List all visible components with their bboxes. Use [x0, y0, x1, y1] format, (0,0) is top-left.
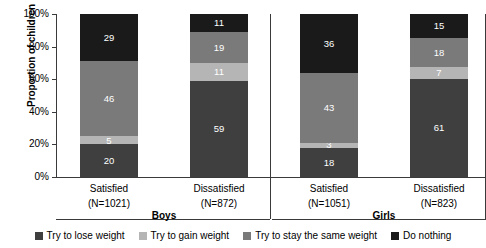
bar-segment: 20 — [80, 144, 138, 177]
stacked-bar-chart: Proportion of children 0%20%40%60%80%100… — [0, 0, 486, 248]
legend-item: Try to lose weight — [35, 231, 125, 241]
x-category-label: Dissatisfied(N=872) — [164, 183, 274, 210]
bar-segment-value: 29 — [104, 33, 115, 43]
bar-segment: 43 — [300, 73, 358, 143]
chart-legend: Try to lose weightTry to gain weightTry … — [0, 231, 486, 241]
bar-segment: 5 — [80, 136, 138, 144]
bar-segment: 15 — [410, 14, 468, 38]
group-label: Girls — [294, 210, 474, 221]
x-axis-baseline — [56, 177, 486, 178]
legend-swatch-icon — [391, 232, 399, 240]
legend-label: Try to stay the same weight — [255, 231, 377, 241]
x-category-name: Satisfied — [54, 183, 164, 195]
bar-segment-value: 19 — [214, 43, 225, 53]
x-category-name: Dissatisfied — [164, 183, 274, 195]
bar-segment: 29 — [80, 14, 138, 61]
bar-segment: 11 — [190, 14, 248, 32]
bar-segment-value: 36 — [324, 39, 335, 49]
legend-label: Try to lose weight — [47, 231, 125, 241]
bar-segment-value: 11 — [214, 67, 224, 77]
bar-segment-value: 15 — [434, 21, 445, 31]
x-category-sample-size: (N=823) — [384, 198, 486, 210]
plot-area: 20546295911191118343366171815 — [56, 14, 486, 177]
bar-segment: 19 — [190, 32, 248, 63]
bar-segment: 46 — [80, 61, 138, 136]
x-category-sample-size: (N=1021) — [54, 198, 164, 210]
bar-segment-value: 5 — [106, 136, 111, 146]
legend-item: Try to gain weight — [139, 231, 230, 241]
bar-segment-value: 46 — [104, 94, 115, 104]
bar-segment: 7 — [410, 67, 468, 78]
x-category-label: Satisfied(N=1021) — [54, 183, 164, 210]
bar-segment: 11 — [190, 63, 248, 81]
bar-segment: 36 — [300, 14, 358, 73]
bar-segment-value: 61 — [434, 123, 445, 133]
x-category-label: Satisfied(N=1051) — [274, 183, 384, 210]
stacked-bar: 2054629 — [80, 14, 138, 177]
x-category-name: Satisfied — [274, 183, 384, 195]
stacked-bar: 6171815 — [410, 14, 468, 177]
bar-segment-value: 20 — [104, 156, 115, 166]
bar-segment: 61 — [410, 79, 468, 177]
x-category-name: Dissatisfied — [384, 183, 486, 195]
legend-label: Do nothing — [403, 231, 451, 241]
legend-swatch-icon — [139, 232, 147, 240]
bar-segment: 18 — [300, 148, 358, 177]
y-tick-label: 0% — [15, 172, 49, 182]
legend-item: Try to stay the same weight — [243, 231, 377, 241]
y-tick-label: 80% — [15, 42, 49, 52]
y-tick-label: 40% — [15, 107, 49, 117]
legend-swatch-icon — [243, 232, 251, 240]
bar-segment-value: 18 — [324, 158, 335, 168]
legend-item: Do nothing — [391, 231, 451, 241]
bar-segment-value: 43 — [324, 103, 335, 113]
bar-segment: 18 — [410, 38, 468, 67]
legend-label: Try to gain weight — [151, 231, 230, 241]
bar-segment: 3 — [300, 143, 358, 148]
stacked-bar: 59111911 — [190, 14, 248, 177]
legend-swatch-icon — [35, 232, 43, 240]
bar-segment-value: 7 — [436, 68, 441, 78]
y-tick-label: 100% — [15, 9, 49, 19]
y-tick-label: 60% — [15, 74, 49, 84]
bar-segment: 59 — [190, 81, 248, 177]
bar-segment-value: 11 — [214, 18, 224, 28]
bar-segment-value: 18 — [434, 48, 445, 58]
bar-segment-value: 59 — [214, 124, 225, 134]
y-tick-label: 20% — [15, 139, 49, 149]
x-category-sample-size: (N=872) — [164, 198, 274, 210]
group-label: Boys — [74, 210, 254, 221]
x-category-label: Dissatisfied(N=823) — [384, 183, 486, 210]
stacked-bar: 1834336 — [300, 14, 358, 177]
x-category-sample-size: (N=1051) — [274, 198, 384, 210]
